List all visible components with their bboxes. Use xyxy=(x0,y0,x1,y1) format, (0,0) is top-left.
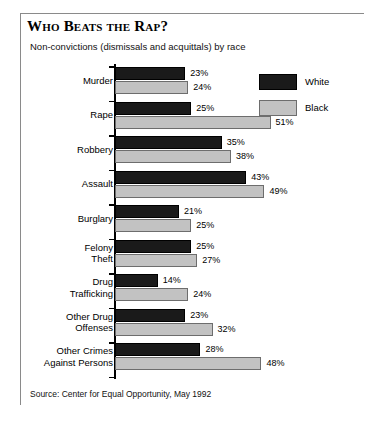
bar-value-label: 21% xyxy=(184,206,202,216)
bar-row: 35% xyxy=(115,136,355,149)
bar-white xyxy=(115,102,191,115)
bar-group: Other CrimesAgainst Persons28%48% xyxy=(21,342,365,377)
bar-value-label: 27% xyxy=(202,255,220,265)
bar-value-label: 32% xyxy=(218,324,236,334)
bar-value-label: 14% xyxy=(163,275,181,285)
bar-white xyxy=(115,343,200,356)
bar-black xyxy=(115,150,231,163)
bar-black xyxy=(115,254,197,267)
bar-row: 48% xyxy=(115,357,355,370)
bar-row: 28% xyxy=(115,343,355,356)
bar-black xyxy=(115,323,213,336)
bar-row: 49% xyxy=(115,185,355,198)
bar-value-label: 43% xyxy=(251,172,269,182)
bar-value-label: 28% xyxy=(205,344,223,354)
bar-white xyxy=(115,309,185,322)
category-label: FelonyTheft xyxy=(84,242,113,265)
category-label: Other DrugOffenses xyxy=(66,311,113,334)
bar-group: Other DrugOffenses23%32% xyxy=(21,308,365,343)
bar-black xyxy=(115,288,188,301)
category-label-line: Trafficking xyxy=(70,288,113,300)
axis-tick xyxy=(109,377,115,379)
category-label-line: Other Drug xyxy=(66,311,113,323)
bar-value-label: 25% xyxy=(196,103,214,113)
bar-value-label: 23% xyxy=(190,68,208,78)
category-label-line: Robbery xyxy=(77,144,113,156)
category-label: Robbery xyxy=(77,144,113,156)
bar-row: 32% xyxy=(115,323,355,336)
category-label: DrugTrafficking xyxy=(70,276,113,299)
bar-value-label: 25% xyxy=(196,220,214,230)
category-label-line: Assault xyxy=(82,178,113,190)
chart-subtitle: Non-convictions (dismissals and acquitta… xyxy=(30,41,245,52)
category-label: Rape xyxy=(90,109,113,121)
bar-row: 25% xyxy=(115,219,355,232)
bar-row: 25% xyxy=(115,240,355,253)
bar-value-label: 48% xyxy=(266,358,284,368)
bar-white xyxy=(115,67,185,80)
bar-black xyxy=(115,219,191,232)
bar-row: 14% xyxy=(115,274,355,287)
legend-label: Black xyxy=(305,102,328,113)
bar-black xyxy=(115,185,264,198)
bar-row: 21% xyxy=(115,205,355,218)
bar-group: FelonyTheft25%27% xyxy=(21,239,365,274)
bar-black xyxy=(115,116,271,129)
bar-row: 24% xyxy=(115,288,355,301)
category-label-line: Theft xyxy=(84,253,113,265)
bar-row: 23% xyxy=(115,309,355,322)
bar-group: Assault43%49% xyxy=(21,170,365,205)
bar-row: 27% xyxy=(115,254,355,267)
legend-swatch-white xyxy=(259,74,297,90)
category-label-line: Murder xyxy=(83,75,113,87)
bar-row: 38% xyxy=(115,150,355,163)
category-label-line: Drug xyxy=(70,276,113,288)
legend-label: White xyxy=(305,76,329,87)
bar-white xyxy=(115,240,191,253)
chart-figure: Who Beats the Rap? Non-convictions (dism… xyxy=(20,13,364,405)
bar-white xyxy=(115,171,246,184)
category-label: Burglary xyxy=(78,213,113,225)
bar-value-label: 51% xyxy=(276,117,294,127)
bar-black xyxy=(115,357,261,370)
legend-swatch-black xyxy=(259,100,297,116)
bar-group: DrugTrafficking14%24% xyxy=(21,273,365,308)
bar-row: 51% xyxy=(115,116,355,129)
bar-value-label: 49% xyxy=(269,186,287,196)
category-label-line: Against Persons xyxy=(44,357,113,369)
bar-row: 43% xyxy=(115,171,355,184)
bar-group: Burglary21%25% xyxy=(21,204,365,239)
category-label: Assault xyxy=(82,178,113,190)
category-label: Other CrimesAgainst Persons xyxy=(44,345,113,368)
bar-value-label: 38% xyxy=(236,151,254,161)
category-label: Murder xyxy=(83,75,113,87)
bar-group: Robbery35%38% xyxy=(21,135,365,170)
category-label-line: Felony xyxy=(84,242,113,254)
bar-value-label: 24% xyxy=(193,82,211,92)
bar-white xyxy=(115,205,179,218)
bar-value-label: 23% xyxy=(190,310,208,320)
bar-value-label: 35% xyxy=(227,137,245,147)
bar-white xyxy=(115,136,222,149)
bar-black xyxy=(115,81,188,94)
source-note: Source: Center for Equal Opportunity, Ma… xyxy=(30,389,211,399)
category-label-line: Rape xyxy=(90,109,113,121)
bar-white xyxy=(115,274,158,287)
category-label-line: Offenses xyxy=(66,322,113,334)
bar-value-label: 25% xyxy=(196,241,214,251)
category-label-line: Burglary xyxy=(78,213,113,225)
bar-value-label: 24% xyxy=(193,289,211,299)
page-title: Who Beats the Rap? xyxy=(27,18,168,35)
category-label-line: Other Crimes xyxy=(44,345,113,357)
